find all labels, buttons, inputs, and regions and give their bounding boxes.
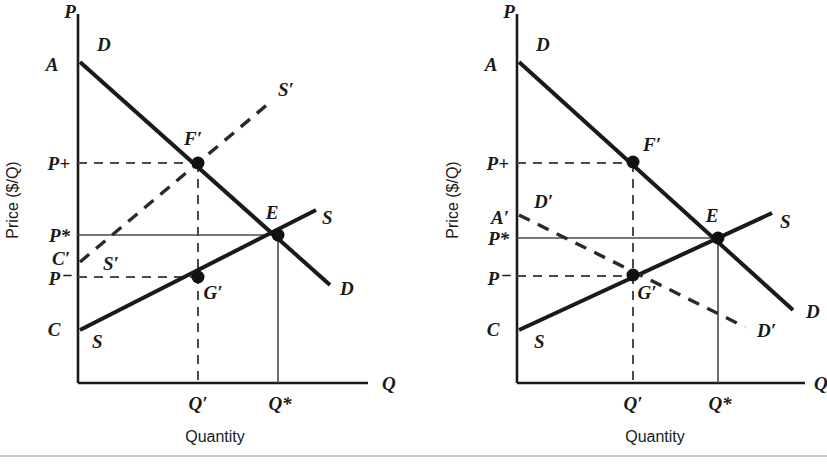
- right-tick-A-prime: A′: [490, 207, 509, 228]
- right-point-F-prime: [627, 156, 640, 169]
- right-quantity-axis-symbol: Q: [814, 373, 827, 394]
- left-tick-C-prime: C′: [52, 248, 70, 269]
- left-point-label-F-prime: F′: [183, 128, 202, 149]
- left-intercept-C: C: [48, 319, 61, 340]
- right-tick-Q-prime: Q′: [623, 393, 642, 414]
- right-supply-curve: [519, 213, 772, 330]
- page-bottom-rule: [0, 455, 827, 457]
- left-label-shifted-supply-top: S′: [278, 79, 294, 100]
- left-shifted-supply-curve: [80, 104, 268, 262]
- right-point-G-prime: [627, 269, 640, 282]
- left-point-label-E: E: [265, 202, 279, 223]
- panel-right: P Q Price ($/Q) Quantity P+ A′ P* P⁻ Q′ …: [444, 1, 827, 445]
- left-point-F-prime: [192, 157, 205, 170]
- left-tick-Q-prime: Q′: [188, 393, 207, 414]
- left-point-label-G-prime: G′: [203, 282, 222, 303]
- left-point-E: [272, 229, 285, 242]
- right-label-shifted-demand-top: D′: [533, 191, 553, 212]
- right-label-supply-end: S: [780, 211, 791, 232]
- left-label-supply-start: S: [92, 331, 103, 352]
- right-y-axis-title: Price ($/Q): [444, 161, 461, 238]
- right-label-demand-top: D: [535, 34, 550, 55]
- panel-left: P Q Price ($/Q) Quantity P+ P* C′ P⁻ Q′ …: [4, 1, 396, 445]
- right-label-shifted-demand-end: D′: [756, 320, 776, 341]
- right-demand-curve: [519, 62, 793, 310]
- left-price-axis-symbol: P: [63, 1, 76, 22]
- right-tick-P-plus: P+: [486, 153, 509, 174]
- right-x-axis-title: Quantity: [625, 428, 685, 445]
- right-tick-P-star: P*: [487, 228, 510, 249]
- left-intercept-A: A: [45, 54, 59, 75]
- right-price-axis-symbol: P: [502, 1, 515, 22]
- left-label-supply-end: S: [322, 207, 333, 228]
- right-point-label-F-prime: F′: [642, 134, 661, 155]
- left-y-axis-title: Price ($/Q): [4, 161, 21, 238]
- right-label-demand-end: D: [805, 301, 820, 322]
- left-tick-P-minus: P⁻: [47, 268, 72, 289]
- right-tick-P-minus: P⁻: [486, 268, 511, 289]
- right-point-label-E: E: [705, 205, 719, 226]
- left-label-demand-top: D: [96, 34, 111, 55]
- figure-svg: P Q Price ($/Q) Quantity P+ P* C′ P⁻ Q′ …: [0, 0, 827, 467]
- left-label-demand-end: D: [339, 278, 354, 299]
- left-x-axis-title: Quantity: [185, 428, 245, 445]
- left-label-shifted-supply-start: S′: [103, 253, 119, 274]
- right-label-supply-start: S: [534, 331, 545, 352]
- right-intercept-C: C: [487, 319, 500, 340]
- left-tick-P-star: P*: [48, 225, 71, 246]
- left-tick-P-plus: P+: [47, 153, 70, 174]
- right-point-E: [712, 232, 725, 245]
- left-quantity-axis-symbol: Q: [382, 373, 396, 394]
- right-tick-Q-star: Q*: [708, 393, 732, 414]
- right-intercept-A: A: [484, 54, 498, 75]
- right-point-label-G-prime: G′: [637, 282, 656, 303]
- tax-incidence-figure: P Q Price ($/Q) Quantity P+ P* C′ P⁻ Q′ …: [0, 0, 827, 467]
- left-tick-Q-star: Q*: [268, 393, 292, 414]
